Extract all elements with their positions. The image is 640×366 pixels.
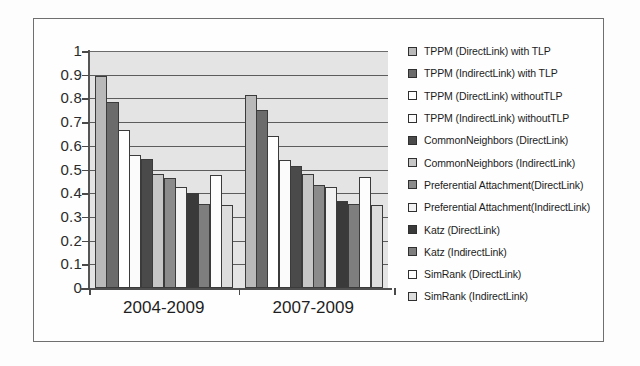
- legend-item-label: Katz (IndirectLink): [424, 246, 507, 258]
- x-axis-category-label: 2007-2009: [245, 298, 383, 318]
- bar: [302, 174, 314, 288]
- bar: [210, 175, 222, 288]
- bar: [152, 174, 164, 288]
- legend-item[interactable]: CommonNeighbors (DirectLink): [408, 129, 608, 151]
- legend-item[interactable]: Katz (DirectLink): [408, 218, 608, 240]
- legend-swatch-icon: [408, 203, 417, 212]
- bar: [256, 110, 268, 288]
- legend-item-label: TPPM (DirectLink) withoutTLP: [424, 90, 562, 102]
- bar: [290, 166, 302, 288]
- legend-item-label: TPPM (DirectLink) with TLP: [424, 45, 551, 57]
- bar: [267, 136, 279, 288]
- legend-item-label: Preferential Attachment(DirectLink): [424, 179, 583, 191]
- legend-item[interactable]: Preferential Attachment(DirectLink): [408, 174, 608, 196]
- y-axis-tick: [82, 217, 89, 219]
- legend-item-label: SimRank (DirectLink): [424, 268, 521, 280]
- legend-item[interactable]: Preferential Attachment(IndirectLink): [408, 196, 608, 218]
- legend-item[interactable]: TPPM (DirectLink) with TLP: [408, 40, 608, 62]
- y-axis-tick: [82, 264, 89, 266]
- legend-item[interactable]: TPPM (IndirectLink) withoutTLP: [408, 107, 608, 129]
- legend-item[interactable]: TPPM (IndirectLink) with TLP: [408, 62, 608, 84]
- y-axis-tick: [82, 241, 89, 243]
- legend-swatch-icon: [408, 69, 417, 78]
- legend-item-label: TPPM (IndirectLink) withoutTLP: [424, 112, 569, 124]
- bar: [141, 159, 153, 288]
- legend-swatch-icon: [408, 225, 417, 234]
- bar: [95, 76, 107, 288]
- bar: [221, 205, 233, 288]
- y-axis-tick: [82, 122, 89, 124]
- x-axis-tick: [239, 288, 241, 295]
- plot-wrapper: 10.90.80.70.60.50.40.30.20.10 TPPM (Dire…: [0, 0, 640, 366]
- bar: [164, 178, 176, 288]
- legend-item[interactable]: Katz (IndirectLink): [408, 241, 608, 263]
- legend-swatch-icon: [408, 114, 417, 123]
- x-axis-tick: [89, 288, 91, 295]
- bar: [118, 130, 130, 288]
- bar: [325, 187, 337, 288]
- legend-item-label: SimRank (IndirectLink): [424, 290, 528, 302]
- bar: [187, 193, 199, 288]
- bar: [336, 201, 348, 288]
- legend-swatch-icon: [408, 158, 417, 167]
- chart-legend: TPPM (DirectLink) with TLPTPPM (Indirect…: [408, 40, 608, 308]
- legend-swatch-icon: [408, 270, 417, 279]
- legend-swatch-icon: [408, 136, 417, 145]
- y-axis-tick: [82, 193, 89, 195]
- y-axis-tick: [82, 288, 89, 290]
- legend-swatch-icon: [408, 180, 417, 189]
- y-axis-tick: [82, 75, 89, 77]
- y-axis-tick: [82, 98, 89, 100]
- legend-item-label: CommonNeighbors (DirectLink): [424, 134, 568, 146]
- legend-item[interactable]: SimRank (IndirectLink): [408, 285, 608, 307]
- bar: [313, 185, 325, 288]
- legend-item-label: Preferential Attachment(IndirectLink): [424, 201, 590, 213]
- legend-swatch-icon: [408, 47, 417, 56]
- bar: [129, 155, 141, 288]
- y-axis-tick: [82, 51, 89, 53]
- legend-item-label: Katz (DirectLink): [424, 224, 500, 236]
- y-axis-tick: [82, 146, 89, 148]
- legend-swatch-icon: [408, 91, 417, 100]
- legend-item-label: CommonNeighbors (IndirectLink): [424, 157, 575, 169]
- x-axis-tick: [394, 288, 396, 295]
- legend-item-label: TPPM (IndirectLink) with TLP: [424, 67, 558, 79]
- bar: [279, 160, 291, 288]
- bar: [359, 177, 371, 288]
- bar: [198, 204, 210, 288]
- bar: [348, 204, 360, 288]
- y-axis-tick: [82, 170, 89, 172]
- bar: [106, 102, 118, 288]
- bar: [245, 95, 257, 288]
- x-axis-category-label: 2004-2009: [95, 298, 233, 318]
- legend-item[interactable]: CommonNeighbors (IndirectLink): [408, 151, 608, 173]
- bar: [175, 187, 187, 288]
- legend-item[interactable]: SimRank (DirectLink): [408, 263, 608, 285]
- legend-swatch-icon: [408, 247, 417, 256]
- legend-swatch-icon: [408, 292, 417, 301]
- bar: [371, 205, 383, 288]
- chart-figure: 10.90.80.70.60.50.40.30.20.10 TPPM (Dire…: [0, 0, 640, 366]
- legend-item[interactable]: TPPM (DirectLink) withoutTLP: [408, 85, 608, 107]
